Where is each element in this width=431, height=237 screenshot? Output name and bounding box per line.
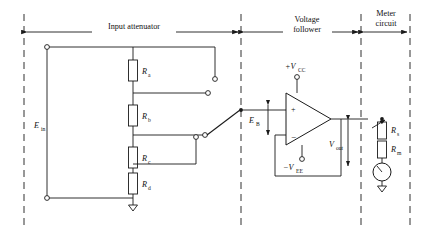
label-Rm: R m <box>390 145 402 156</box>
label-vee: −V EE <box>283 163 303 174</box>
schematic-canvas: Input attenuator Voltage follower Meter … <box>0 0 431 237</box>
section-label-voltage-follower-line1: Voltage <box>295 15 320 24</box>
circuit-schematic: Input attenuator Voltage follower Meter … <box>0 0 431 237</box>
svg-text:V: V <box>329 140 335 149</box>
svg-text:R: R <box>141 112 147 121</box>
svg-text:+V: +V <box>285 62 297 71</box>
svg-text:E: E <box>248 116 254 125</box>
label-vcc: +V CC <box>285 62 306 73</box>
opamp-inverting-input-label: − <box>291 132 296 142</box>
resistor-Rc <box>129 147 138 168</box>
resistor-Rm <box>378 141 387 158</box>
svg-text:d: d <box>148 185 151 191</box>
ground-symbol-attenuator <box>129 205 138 211</box>
svg-text:−V: −V <box>283 163 295 172</box>
opamp-noninverting-input-label: + <box>291 105 296 114</box>
svg-text:R: R <box>141 154 147 163</box>
label-Rb: R b <box>141 112 151 123</box>
switch-contact-range-4[interactable] <box>194 135 199 140</box>
node-follower-input <box>239 108 243 112</box>
svg-text:in: in <box>41 126 46 132</box>
svg-text:R: R <box>141 180 147 189</box>
label-Rd: R d <box>141 180 151 191</box>
switch-wiper[interactable] <box>207 110 240 135</box>
input-terminal-bottom[interactable] <box>45 196 50 201</box>
ground-symbol-meter <box>378 186 387 192</box>
svg-text:CC: CC <box>298 67 306 73</box>
svg-text:E: E <box>33 121 39 130</box>
svg-text:R: R <box>390 126 396 135</box>
vee-terminal[interactable] <box>300 157 305 162</box>
section-label-voltage-follower-line2: follower <box>293 25 321 34</box>
svg-text:out: out <box>336 145 344 151</box>
svg-text:R: R <box>141 67 147 76</box>
section-label-meter-circuit-line1: Meter <box>376 9 396 18</box>
label-Ra: R a <box>141 67 151 78</box>
resistor-Rd <box>129 173 138 194</box>
label-e-in: E in <box>33 121 46 132</box>
label-Rs: R s <box>390 126 399 137</box>
switch-contact-range-1[interactable] <box>213 77 218 82</box>
vcc-terminal[interactable] <box>295 75 300 80</box>
resistor-Rb <box>129 105 138 126</box>
resistor-Ra <box>129 60 138 81</box>
svg-text:m: m <box>397 150 402 156</box>
switch-contact-range-3[interactable] <box>203 133 208 138</box>
section-label-meter-circuit-line2: circuit <box>376 19 398 28</box>
svg-text:s: s <box>397 131 399 137</box>
resistor-Rs <box>378 122 387 139</box>
svg-text:a: a <box>148 72 151 78</box>
section-label-input-attenuator: Input attenuator <box>108 22 160 31</box>
svg-text:B: B <box>256 121 260 127</box>
input-terminal-top[interactable] <box>45 45 50 50</box>
label-e-b: E B <box>248 116 260 127</box>
svg-text:b: b <box>148 117 151 123</box>
switch-contact-range-2[interactable] <box>206 91 211 96</box>
node-meter-top <box>380 117 384 121</box>
svg-text:EE: EE <box>296 168 303 174</box>
svg-text:R: R <box>390 145 396 154</box>
label-Rc: R c <box>141 154 151 165</box>
